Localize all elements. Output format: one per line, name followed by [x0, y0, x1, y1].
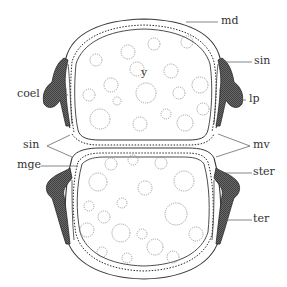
label-mv: mv	[253, 139, 270, 150]
bottom-yolk-granules	[80, 155, 203, 263]
top-left-thickening	[43, 58, 70, 126]
bottom-inner-wall	[77, 157, 209, 266]
label-yolk: y	[141, 67, 147, 78]
top-right-thickening	[216, 58, 243, 126]
label-md: md	[221, 15, 238, 26]
top-bottom-wall	[78, 130, 208, 140]
top-yolk-granules	[83, 36, 209, 131]
top-segment	[43, 19, 242, 145]
label-mge: mge	[17, 159, 41, 170]
label-sin-top-right: sin	[254, 55, 270, 66]
label-sin-left: sin	[23, 139, 39, 150]
bottom-left-coelom	[72, 180, 74, 240]
bottom-right-thickening	[214, 168, 240, 244]
bottom-left-thickening	[46, 168, 72, 244]
label-lp: lp	[249, 93, 260, 104]
cross-section-diagram	[0, 0, 287, 287]
top-inner-wall	[75, 29, 212, 130]
label-ster: ster	[253, 166, 275, 177]
bottom-segment	[46, 148, 239, 279]
label-ter: ter	[253, 213, 269, 224]
label-coel: coel	[17, 88, 40, 99]
bottom-outer-wall	[65, 158, 221, 279]
